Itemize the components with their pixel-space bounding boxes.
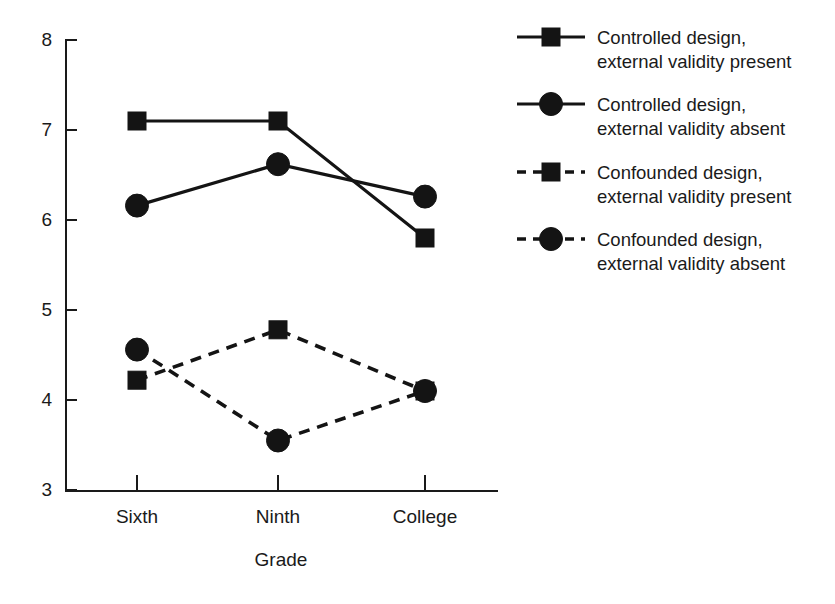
data-point-square-sixth <box>128 371 146 389</box>
legend-marker-square <box>542 163 560 181</box>
legend-item-3[interactable]: Confounded design,external validity abse… <box>517 228 785 275</box>
legend-marker-square <box>542 28 560 46</box>
y-tick-label: 4 <box>41 389 52 410</box>
legend-item-0[interactable]: Controlled design,external validity pres… <box>517 27 791 72</box>
series-layer <box>126 112 437 452</box>
legend-label-line2: external validity absent <box>597 253 785 274</box>
x-axis-title: Grade <box>255 549 308 570</box>
data-point-square-ninth <box>269 112 287 130</box>
legend-label-line2: external validity absent <box>597 118 785 139</box>
data-point-circle-ninth <box>267 429 290 452</box>
y-tick-label: 7 <box>41 119 52 140</box>
x-tick-label-ninth: Ninth <box>256 506 300 527</box>
data-point-circle-college <box>414 380 437 403</box>
line-chart: 876543 SixthNinthCollege Grade Controlle… <box>0 0 835 604</box>
y-tick-label: 5 <box>41 299 52 320</box>
legend-label-line1: Controlled design, <box>597 27 746 48</box>
y-tick-label: 6 <box>41 209 52 230</box>
data-point-square-sixth <box>128 112 146 130</box>
legend-item-2[interactable]: Confounded design,external validity pres… <box>517 162 791 207</box>
legend-label-line1: Confounded design, <box>597 229 763 250</box>
data-point-square-ninth <box>269 321 287 339</box>
y-tick-label: 3 <box>41 479 52 500</box>
data-point-circle-college <box>414 185 437 208</box>
legend-label-line1: Controlled design, <box>597 94 746 115</box>
x-axis-ticks <box>137 475 425 491</box>
data-point-square-college <box>416 229 434 247</box>
x-axis: SixthNinthCollege Grade <box>66 475 497 570</box>
legend-item-1[interactable]: Controlled design,external validity abse… <box>517 93 785 140</box>
legend-marker-circle <box>540 93 563 116</box>
x-tick-label-sixth: Sixth <box>116 506 158 527</box>
y-axis-ticks <box>66 40 77 490</box>
data-point-circle-sixth <box>126 194 149 217</box>
series-3 <box>126 338 437 452</box>
series-1 <box>126 153 437 217</box>
data-point-circle-ninth <box>267 153 290 176</box>
data-point-circle-sixth <box>126 338 149 361</box>
chart-legend: Controlled design,external validity pres… <box>517 27 791 274</box>
series-0 <box>128 112 434 247</box>
chart-canvas: 876543 SixthNinthCollege Grade Controlle… <box>0 0 835 604</box>
y-tick-label: 8 <box>41 29 52 50</box>
legend-label-line2: external validity present <box>597 186 791 207</box>
series-line-0 <box>137 121 425 238</box>
y-axis: 876543 <box>41 29 77 500</box>
x-axis-tick-labels: SixthNinthCollege <box>116 506 457 527</box>
legend-marker-circle <box>540 228 563 251</box>
y-axis-tick-labels: 876543 <box>41 29 52 500</box>
x-tick-label-college: College <box>393 506 457 527</box>
legend-label-line1: Confounded design, <box>597 162 763 183</box>
legend-label-line2: external validity present <box>597 51 791 72</box>
series-2 <box>128 321 434 400</box>
